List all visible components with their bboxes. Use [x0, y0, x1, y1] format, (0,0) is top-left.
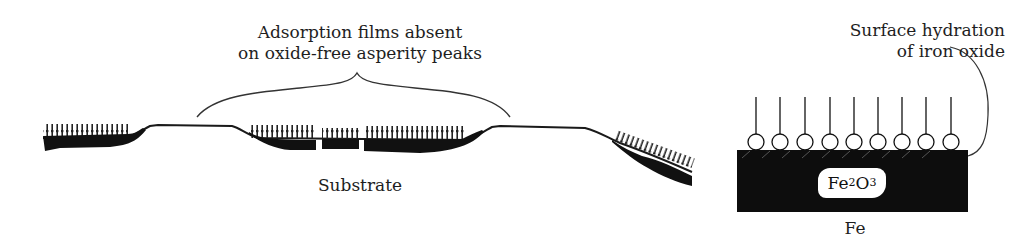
adsorbed-film-patch-3	[612, 130, 695, 186]
substrate-label: Substrate	[300, 175, 420, 196]
brace-icon	[197, 73, 510, 117]
fe2o3-fe: Fe	[828, 173, 849, 193]
adsorption-diagram: Adsorption films absent on oxide-free as…	[0, 0, 1018, 245]
annotation-surface-hydration: Surface hydration of iron oxide	[790, 20, 1005, 62]
molecule	[772, 97, 788, 150]
molecule	[748, 97, 764, 150]
adsorbed-film-patch-1	[43, 124, 146, 151]
adsorbed-molecules	[748, 97, 959, 150]
molecule	[797, 97, 813, 150]
annotation-line-1: Adsorption films absent	[205, 22, 515, 43]
fe2o3-label: Fe2O3	[818, 168, 886, 198]
molecule	[918, 97, 934, 150]
fe-metal-label: Fe	[815, 218, 895, 239]
molecule	[870, 97, 886, 150]
molecule	[894, 97, 910, 150]
fe2o3-o: O	[856, 173, 870, 193]
molecule	[846, 97, 862, 150]
molecule	[943, 97, 959, 150]
annotation-adsorption-absent: Adsorption films absent on oxide-free as…	[205, 22, 515, 64]
annotation-line-1: Surface hydration	[790, 20, 1005, 41]
annotation-line-2: on oxide-free asperity peaks	[205, 43, 515, 64]
molecule	[822, 97, 838, 150]
annotation-line-2: of iron oxide	[790, 41, 1005, 62]
